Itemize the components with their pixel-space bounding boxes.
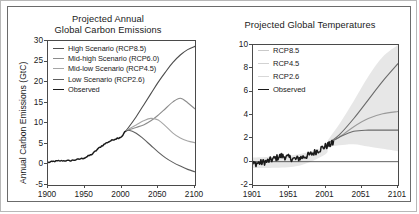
y-tick-label: 4 — [222, 109, 248, 119]
x-tick-mark — [157, 185, 158, 188]
x-tick-mark — [252, 185, 253, 188]
panel-left-title-line1: Projected Annual — [7, 14, 209, 25]
y-tick-mark — [44, 163, 47, 164]
y-tick-label: -2 — [222, 179, 248, 189]
x-tick-label: 2100 — [178, 189, 210, 199]
panel-right-title-line1: Projected Global Temperatures — [209, 20, 411, 31]
y-tick-label: 20 — [17, 76, 43, 86]
y-tick-label: 8 — [222, 62, 248, 72]
y-tick-mark — [249, 114, 252, 115]
y-tick-mark — [44, 122, 47, 123]
legend-swatch-icon — [258, 63, 269, 64]
series-line — [125, 130, 195, 172]
legend-carbon-emissions: High Scenario (RCP8.5)Mid-high Scenario … — [53, 44, 159, 94]
x-tick-label: 1951 — [272, 189, 304, 199]
legend-left-label: Mid-low Scenario (RCP4.5) — [68, 64, 156, 73]
legend-swatch-icon — [258, 50, 269, 51]
legend-right-label: RCP4.5 — [273, 59, 299, 68]
y-tick-label: 10 — [222, 39, 248, 49]
legend-swatch-icon — [53, 79, 64, 80]
legend-left-label: High Scenario (RCP8.5) — [68, 44, 146, 53]
y-tick-mark — [44, 143, 47, 144]
x-tick-label: 2000 — [105, 189, 137, 199]
legend-left-item: Mid-high Scenario (RCP6.0) — [53, 54, 159, 64]
y-tick-label: 10 — [17, 117, 43, 127]
legend-left-label: Mid-high Scenario (RCP6.0) — [68, 54, 159, 63]
legend-left-label: Observed — [68, 85, 100, 94]
x-tick-label: 1901 — [236, 189, 268, 199]
legend-swatch-icon — [258, 89, 269, 90]
series-line — [48, 132, 125, 163]
panel-left-title: Projected Annual Global Carbon Emissions — [7, 14, 209, 36]
legend-left-label: Low Scenario (RCP2.6) — [68, 75, 145, 84]
y-tick-mark — [44, 40, 47, 41]
y-tick-label: 25 — [17, 55, 43, 65]
y-tick-mark — [44, 81, 47, 82]
x-tick-mark — [84, 185, 85, 188]
legend-swatch-icon — [258, 76, 269, 77]
x-tick-label: 2051 — [345, 189, 377, 199]
y-tick-mark — [249, 91, 252, 92]
legend-swatch-icon — [53, 89, 64, 90]
y-tick-mark — [44, 102, 47, 103]
x-tick-mark — [288, 185, 289, 188]
series-line — [125, 98, 195, 131]
legend-swatch-icon — [53, 68, 64, 69]
legend-swatch-icon — [53, 48, 64, 49]
y-tick-label: 0 — [17, 158, 43, 168]
y-tick-mark — [249, 67, 252, 68]
legend-right-label: RCP2.6 — [273, 72, 299, 81]
legend-right-item: RCP2.6 — [258, 71, 306, 83]
y-tick-label: 0 — [222, 155, 248, 165]
figure-root: Projected Annual Global Carbon Emissions… — [0, 0, 419, 214]
y-tick-mark — [249, 137, 252, 138]
legend-right-item: RCP8.5 — [258, 45, 306, 57]
legend-left-item: Observed — [53, 84, 159, 94]
y-tick-label: 2 — [222, 132, 248, 142]
x-tick-label: 1900 — [31, 189, 63, 199]
y-tick-mark — [249, 44, 252, 45]
x-tick-mark — [397, 185, 398, 188]
x-tick-label: 1950 — [68, 189, 100, 199]
legend-right-label: RCP8.5 — [273, 46, 299, 55]
legend-right-item: RCP4.5 — [258, 58, 306, 70]
legend-left-item: Mid-low Scenario (RCP4.5) — [53, 64, 159, 74]
y-tick-label: 5 — [17, 138, 43, 148]
series-line — [125, 118, 195, 142]
y-tick-label: 15 — [17, 97, 43, 107]
x-tick-mark — [47, 185, 48, 188]
x-tick-mark — [361, 185, 362, 188]
x-tick-label: 2001 — [309, 189, 341, 199]
y-tick-label: 30 — [17, 35, 43, 45]
legend-right-item: Observed — [258, 84, 306, 96]
y-tick-mark — [44, 61, 47, 62]
legend-swatch-icon — [53, 58, 64, 59]
y-tick-label: 6 — [222, 85, 248, 95]
x-tick-label: 2101 — [381, 189, 413, 199]
legend-left-item: Low Scenario (RCP2.6) — [53, 74, 159, 84]
x-tick-mark — [121, 185, 122, 188]
y-tick-label: -5 — [17, 179, 43, 189]
legend-left-item: High Scenario (RCP8.5) — [53, 44, 159, 54]
legend-global-temperatures: RCP8.5RCP4.5RCP2.6Observed — [258, 45, 306, 97]
y-tick-mark — [249, 161, 252, 162]
panel-right-title: Projected Global Temperatures — [209, 20, 411, 31]
x-tick-label: 2050 — [141, 189, 173, 199]
x-tick-mark — [325, 185, 326, 188]
legend-right-label: Observed — [273, 85, 306, 94]
x-tick-mark — [194, 185, 195, 188]
